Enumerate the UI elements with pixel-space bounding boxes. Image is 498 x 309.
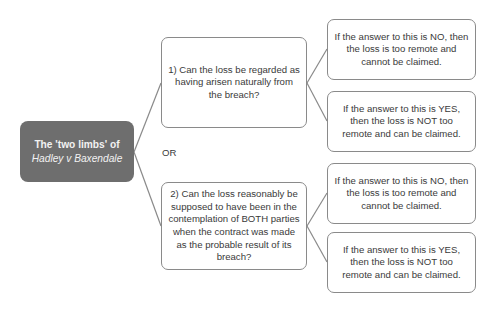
connector-limb1-to-yes xyxy=(307,83,327,121)
limb-1-question-text: 1) Can the loss be regarded as having ar… xyxy=(168,64,300,102)
or-label: OR xyxy=(162,147,176,158)
limb-1-outcome-no: If the answer to this is NO, then the lo… xyxy=(327,19,476,80)
outcome-text: If the answer to this is YES, then the l… xyxy=(334,244,469,282)
connector-root-to-limb1 xyxy=(134,83,161,152)
limb-1-question: 1) Can the loss be regarded as having ar… xyxy=(161,37,307,128)
limb-2-question-text: 2) Can the loss reasonably be supposed t… xyxy=(168,188,300,264)
limb-1-outcome-yes: If the answer to this is YES, then the l… xyxy=(327,91,476,152)
root-node: The 'two limbs' of Hadley v Baxendale xyxy=(20,121,134,182)
connector-limb2-to-no xyxy=(307,193,327,226)
root-case-name: Hadley v Baxendale xyxy=(32,152,123,166)
limb-2-outcome-no: If the answer to this is NO, then the lo… xyxy=(327,163,476,224)
root-title: The 'two limbs' of xyxy=(34,138,119,152)
connector-limb2-to-yes xyxy=(307,226,327,262)
outcome-text: If the answer to this is NO, then the lo… xyxy=(334,175,469,213)
limb-2-outcome-yes: If the answer to this is YES, then the l… xyxy=(327,232,476,293)
connector-limb1-to-no xyxy=(307,49,327,83)
limb-2-question: 2) Can the loss reasonably be supposed t… xyxy=(161,182,307,270)
connector-root-to-limb2 xyxy=(134,152,161,226)
outcome-text: If the answer to this is YES, then the l… xyxy=(334,103,469,141)
outcome-text: If the answer to this is NO, then the lo… xyxy=(334,31,469,69)
